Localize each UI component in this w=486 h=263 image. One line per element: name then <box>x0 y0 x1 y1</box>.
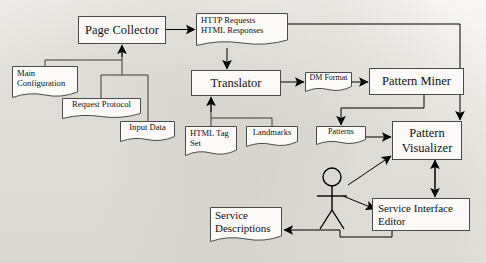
node-label: Page Collector <box>85 23 159 38</box>
node-label-line2: Set <box>190 138 237 148</box>
node-label-line1: Service <box>215 209 282 222</box>
node-label-wrap: DM Format <box>305 72 352 93</box>
node-label: Patterns <box>328 127 354 136</box>
node-http-html[interactable]: HTTP Requests HTML Responses <box>196 13 288 48</box>
node-patterns[interactable]: Patterns <box>316 126 366 146</box>
node-label-line2: Visualizer <box>402 141 453 156</box>
node-label-wrap: Patterns <box>316 126 366 146</box>
node-label: Translator <box>211 76 262 91</box>
node-label: Input Data <box>129 122 166 132</box>
edge-actor-to-service-interface-editor <box>343 196 375 209</box>
node-dm-format[interactable]: DM Format <box>305 72 352 93</box>
node-landmarks[interactable]: Landmarks <box>246 126 298 148</box>
node-label-wrap: Landmarks <box>246 126 298 148</box>
node-label-line1: Pattern <box>409 126 444 141</box>
node-label-wrap: HTTP Requests HTML Responses <box>196 13 288 48</box>
node-label-line1: HTML Tag <box>190 128 237 138</box>
user-actor-icon <box>317 168 347 229</box>
node-page-collector[interactable]: Page Collector <box>78 16 166 44</box>
node-main-configuration[interactable]: Main Configuration <box>12 66 78 100</box>
node-request-protocol[interactable]: Request Protocol <box>62 98 141 120</box>
node-label-wrap: HTML Tag Set <box>185 126 237 158</box>
node-pattern-visualizer[interactable]: Pattern Visualizer <box>392 121 462 160</box>
diagram-canvas: Page Collector Translator Pattern Miner … <box>0 0 486 263</box>
node-label-line1: Main <box>17 68 78 78</box>
node-label-line2: Editor <box>378 215 406 228</box>
node-label-line2: Configuration <box>17 78 78 88</box>
node-label: Pattern Miner <box>382 74 451 89</box>
node-label-wrap: Input Data <box>120 121 175 143</box>
node-label-line1: HTTP Requests <box>201 15 288 25</box>
node-label: Request Protocol <box>72 99 131 109</box>
node-label: Landmarks <box>253 127 292 137</box>
node-label-wrap: Main Configuration <box>12 66 78 100</box>
node-label-line2: Descriptions <box>215 222 282 235</box>
node-input-data[interactable]: Input Data <box>120 121 175 143</box>
node-label-line1: Service Interface <box>378 202 453 215</box>
node-translator[interactable]: Translator <box>191 70 281 96</box>
edge-actor-to-pattern-visualizer <box>348 156 391 185</box>
node-label-line2: HTML Responses <box>201 25 288 35</box>
edge-editor-to-service-descriptions <box>284 230 392 237</box>
node-pattern-miner[interactable]: Pattern Miner <box>369 68 464 95</box>
node-label-wrap: Service Descriptions <box>210 207 282 245</box>
node-label-wrap: Request Protocol <box>62 98 141 120</box>
node-service-descriptions[interactable]: Service Descriptions <box>210 207 282 245</box>
node-html-tag-set[interactable]: HTML Tag Set <box>185 126 237 158</box>
node-service-interface-editor[interactable]: Service Interface Editor <box>372 198 470 231</box>
node-label: DM Format <box>310 73 348 82</box>
